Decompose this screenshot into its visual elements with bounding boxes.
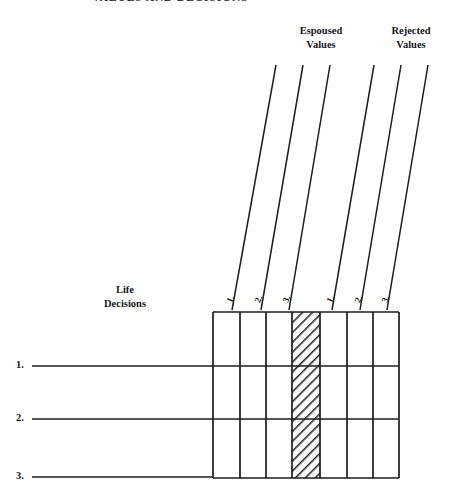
group-header-espoused-line2: Values [275,38,367,52]
diagram-vector-layer [0,0,449,504]
group-header-rejected-line1: Rejected [372,24,449,38]
left-axis-label: Life Decisions [72,283,178,311]
figure-title: VALUES AND DECISIONS [92,0,248,5]
row-label-1: 1. [16,359,24,370]
figure-canvas: VALUES AND DECISIONS Espoused Values Rej… [0,0,449,504]
group-header-rejected-line2: Values [372,38,449,52]
group-header-espoused: Espoused Values [275,24,367,51]
group-header-espoused-line1: Espoused [275,24,367,38]
row-label-2: 2. [16,412,24,423]
left-axis-label-line2: Decisions [72,297,178,311]
row-label-3: 3. [16,470,24,481]
left-axis-label-line1: Life [72,283,178,297]
group-header-rejected: Rejected Values [372,24,449,51]
row-connector-lines [32,366,213,477]
leader-lines-espoused [232,65,330,310]
highlighted-column [292,312,320,478]
leader-lines-rejected [332,65,428,310]
